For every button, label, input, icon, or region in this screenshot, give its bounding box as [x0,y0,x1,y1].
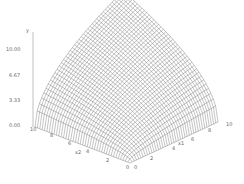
z-tick: 10.00 [6,46,20,52]
x2-axis-label: x2 [75,149,81,155]
x1-axis-label: x1 [178,140,184,146]
x2-tick: 10 [30,126,36,132]
x2-tick: 8 [50,132,53,138]
x2-tick: 6 [68,140,71,146]
x1-tick: 8 [208,127,211,133]
x2-tick: 4 [86,148,89,154]
x1-tick: 0 [134,164,137,170]
z-axis: y 10.00 6.67 3.33 0.00 [6,27,33,128]
x1-tick: 6 [191,136,194,142]
x1-tick: 2 [150,155,153,161]
z-tick: 6.67 [9,72,20,78]
x2-tick: 2 [106,157,109,163]
z-tick: 3.33 [9,97,20,103]
x1-tick: 4 [172,145,175,151]
z-tick: 0.00 [9,122,20,128]
z-axis-label: y [26,27,29,34]
x1-tick: 10 [226,121,232,127]
x2-tick: 0 [126,164,129,170]
surface-plot: y 10.00 6.67 3.33 0.00 10 8 6 4 2 0 x2 0… [0,0,244,184]
